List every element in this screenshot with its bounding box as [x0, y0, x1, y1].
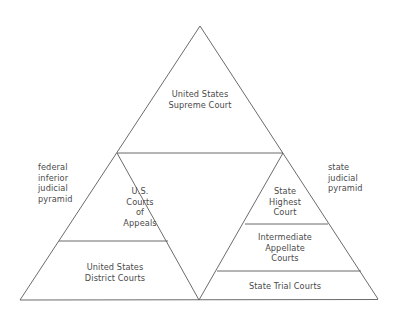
state-pyramid-left-edge — [199, 153, 283, 300]
state-highest-court-label: State Highest Court — [255, 186, 315, 218]
district-courts-label: United States District Courts — [75, 262, 155, 283]
pyramid-outlines — [0, 0, 398, 317]
federal-pyramid-side-label: federal inferior judicial pyramid — [38, 162, 73, 204]
judicial-pyramid-diagram: United States Supreme Court federal infe… — [0, 0, 398, 317]
courts-of-appeals-label: U.S. Courts of Appeals — [110, 186, 170, 228]
supreme-court-label: United States Supreme Court — [160, 89, 240, 110]
state-pyramid-side-label: state judicial pyramid — [328, 162, 363, 194]
state-trial-courts-label: State Trial Courts — [240, 281, 330, 292]
intermediate-appellate-courts-label: Intermediate Appellate Courts — [245, 232, 325, 264]
